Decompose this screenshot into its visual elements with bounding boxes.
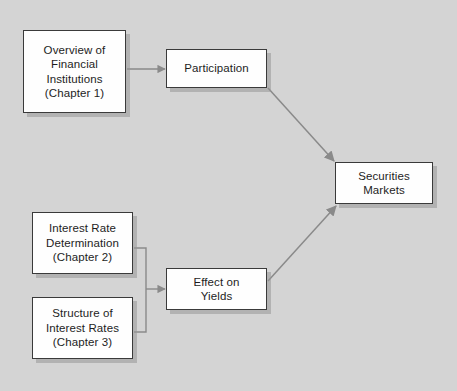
node-label-participation: Participation: [184, 61, 249, 76]
node-participation[interactable]: Participation: [166, 49, 267, 88]
node-label-interest-rate-determination: Interest Rate Determination (Chapter 2): [46, 221, 119, 265]
node-label-overview-financial-institutions: Overview of Financial Institutions (Chap…: [44, 43, 106, 101]
connector-effect-on-yields-to-securities-markets: [268, 206, 336, 281]
connector-rates-bracket-to-effect-on-yields: [134, 248, 165, 332]
node-securities-markets[interactable]: Securities Markets: [335, 162, 433, 204]
node-effect-on-yields[interactable]: Effect on Yields: [166, 268, 267, 310]
connector-participation-to-securities-markets: [268, 88, 334, 161]
node-label-securities-markets: Securities Markets: [358, 169, 410, 198]
node-structure-of-interest-rates[interactable]: Structure of Interest Rates (Chapter 3): [32, 297, 133, 359]
node-interest-rate-determination[interactable]: Interest Rate Determination (Chapter 2): [32, 212, 133, 274]
diagram-canvas: Overview of Financial Institutions (Chap…: [0, 0, 457, 391]
node-label-effect-on-yields: Effect on Yields: [193, 275, 239, 304]
node-overview-financial-institutions[interactable]: Overview of Financial Institutions (Chap…: [23, 30, 126, 113]
node-label-structure-of-interest-rates: Structure of Interest Rates (Chapter 3): [46, 306, 119, 350]
